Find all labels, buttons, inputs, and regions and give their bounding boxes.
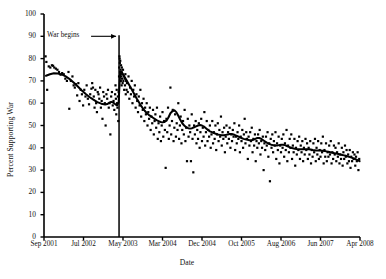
war-begins-annotation: War begins [47,31,79,39]
scatter-points [44,55,360,182]
y-tick-label: 100 [14,9,36,18]
y-tick-label: 90 [14,31,36,40]
x-tick-label: Apr 2008 [337,240,383,248]
y-tick-label: 10 [14,210,36,219]
y-tick-label: 60 [14,98,36,107]
scatter-plot-canvas [0,0,386,279]
x-axis-title: Date [0,258,386,267]
y-tick-label: 70 [14,76,36,85]
war-begins-arrow-head [111,34,116,39]
y-tick-label: 40 [14,143,36,152]
chart-figure: Percent Supporting War Date 010203040506… [0,0,386,279]
y-tick-label: 80 [14,54,36,63]
axes [41,14,361,241]
y-tick-label: 20 [14,187,36,196]
x-axis-title-text: Date [180,258,194,267]
y-tick-label: 30 [14,165,36,174]
trend-line [46,72,360,162]
y-tick-label: 50 [14,121,36,130]
war-begins-label: War begins [47,31,79,39]
